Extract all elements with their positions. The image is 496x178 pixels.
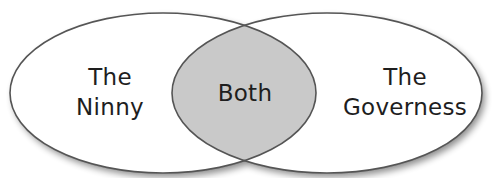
intersection-label: Both bbox=[195, 78, 295, 108]
intersection-label-text: Both bbox=[195, 78, 295, 108]
left-set-label-line2: Ninny bbox=[50, 92, 170, 122]
left-set-label-line1: The bbox=[50, 62, 170, 92]
left-set-label: The Ninny bbox=[50, 62, 170, 122]
right-set-label-line1: The bbox=[330, 62, 480, 92]
right-set-label-line2: Governess bbox=[330, 92, 480, 122]
right-set-label: The Governess bbox=[330, 62, 480, 122]
